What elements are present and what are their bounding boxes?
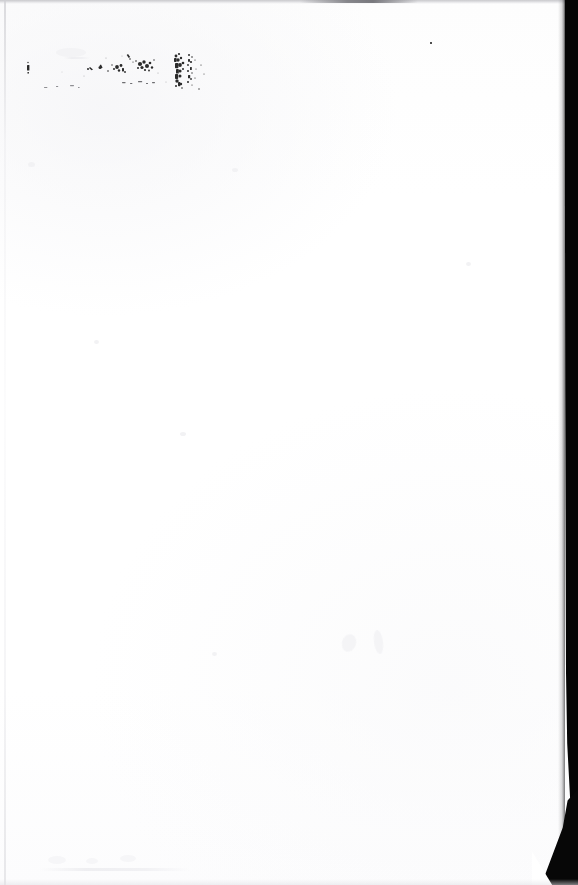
- paper-sheet: [0, 0, 578, 885]
- dust-speck-6: [466, 262, 471, 266]
- dust-speck-2: [232, 168, 238, 172]
- top-scan-edge-shadow: [300, 0, 418, 3]
- right-edge-gradient: [558, 0, 565, 885]
- top-scan-edge-band: [0, 0, 578, 4]
- isolated-ink-speck: [430, 42, 432, 44]
- dust-speck-3: [94, 340, 99, 344]
- ghost-mark-bottom-3: [120, 855, 136, 862]
- dust-speck-1: [28, 162, 35, 167]
- ghost-mark-bottom-2: [86, 858, 98, 864]
- ghost-line-upper-left: [64, 57, 90, 59]
- paper-texture: [0, 0, 578, 885]
- ghost-line-bottom: [40, 868, 190, 871]
- ghost-mark-upper-left: [56, 48, 86, 57]
- dust-speck-5: [212, 652, 217, 656]
- scanned-document-page: [0, 0, 578, 885]
- left-paper-edge: [4, 0, 6, 885]
- bottom-scan-edge: [0, 879, 578, 885]
- dust-speck-4: [180, 432, 186, 436]
- ghost-mark-bottom-1: [48, 856, 66, 864]
